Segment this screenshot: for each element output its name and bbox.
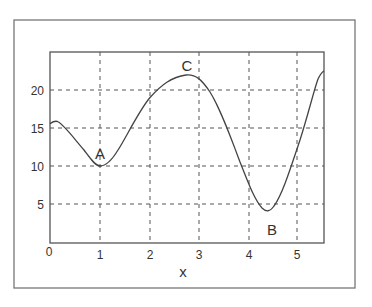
grid <box>50 52 324 243</box>
y-tick-10: 10 <box>31 160 45 174</box>
plot-area <box>50 52 324 243</box>
x-tick-3: 3 <box>196 248 203 262</box>
y-tick-20: 20 <box>31 84 45 98</box>
annotation-b: B <box>267 221 277 238</box>
annotation-a: A <box>95 145 105 162</box>
x-tick-5: 5 <box>294 248 301 262</box>
y-tick-5: 5 <box>37 198 44 212</box>
chart-figure: A C B 20 15 10 5 0 1 2 3 4 5 x <box>0 0 372 307</box>
x-tick-4: 4 <box>246 248 253 262</box>
annotation-c: C <box>182 57 193 74</box>
x-tick-1: 1 <box>97 248 104 262</box>
x-tick-2: 2 <box>147 248 154 262</box>
origin-label: 0 <box>46 245 53 259</box>
y-tick-15: 15 <box>31 122 45 136</box>
x-axis-label: x <box>179 263 187 280</box>
data-line <box>50 71 324 211</box>
